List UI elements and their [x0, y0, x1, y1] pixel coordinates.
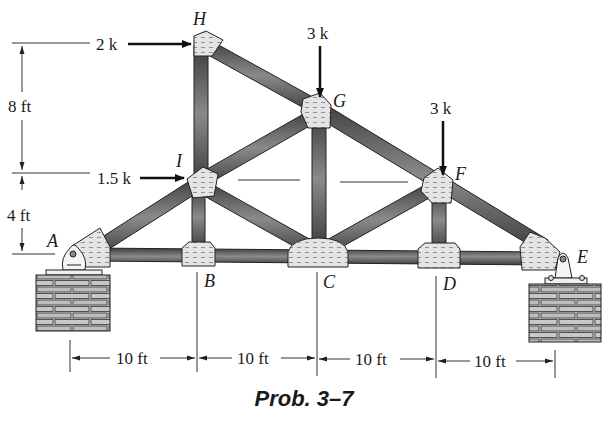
- gusset-B: [182, 242, 215, 266]
- member-G-C: [312, 110, 326, 248]
- load-label-G: 3 k: [307, 25, 328, 42]
- load-label-H: 2 k: [96, 36, 117, 53]
- dim-label-AB: 10 ft: [114, 350, 150, 367]
- gusset-D: [418, 243, 460, 268]
- load-label-I: 1.5 k: [97, 170, 131, 187]
- member-H-G: [201, 38, 318, 113]
- node-label-A: A: [47, 232, 58, 250]
- node-label-F: F: [455, 165, 466, 183]
- dim-label-4ft: 4 ft: [5, 207, 32, 224]
- node-label-I: I: [176, 152, 182, 170]
- member-I-H: [194, 45, 208, 184]
- truss-figure: H G F I A B C D E 2 k 1.5 k 3 k 3 k 8 ft…: [0, 0, 608, 426]
- node-label-E: E: [577, 248, 588, 266]
- gusset-C: [288, 238, 348, 267]
- load-label-F: 3 k: [430, 100, 451, 117]
- figure-caption: Prob. 3–7: [0, 386, 608, 412]
- gusset-E: [520, 232, 560, 270]
- node-label-G: G: [333, 92, 346, 110]
- node-label-H: H: [193, 10, 206, 28]
- truss-drawing: [0, 0, 608, 426]
- truss-members: [88, 38, 548, 265]
- gusset-I: [187, 167, 218, 198]
- node-label-C: C: [323, 273, 335, 291]
- dim-label-DE: 10 ft: [472, 353, 508, 370]
- node-label-D: D: [443, 275, 456, 293]
- dim-label-CD: 10 ft: [353, 351, 389, 368]
- dim-label-BC: 10 ft: [235, 350, 271, 367]
- gusset-G: [301, 93, 331, 128]
- dim-label-8ft: 8 ft: [6, 98, 33, 115]
- node-label-B: B: [204, 272, 215, 290]
